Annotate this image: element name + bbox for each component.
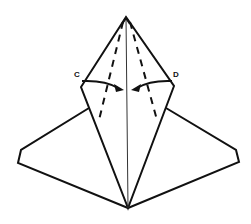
center-crease: [126, 17, 128, 208]
label-d: D: [173, 70, 179, 79]
left-fold-arrow: [82, 81, 118, 88]
left-arrowhead-icon: [114, 84, 124, 92]
right-wing: [128, 108, 239, 208]
right-dashed-fold: [130, 22, 157, 120]
left-wing: [18, 108, 128, 208]
right-fold-arrow: [137, 81, 172, 88]
label-c: C: [74, 70, 80, 79]
right-arrowhead-icon: [131, 84, 141, 92]
left-dashed-fold: [99, 22, 123, 120]
origami-diagram: C D: [0, 0, 251, 224]
